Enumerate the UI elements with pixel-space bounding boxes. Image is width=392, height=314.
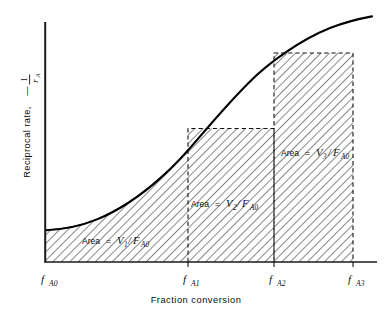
- svg-text:A2: A2: [276, 279, 286, 288]
- svg-text:=: =: [106, 236, 111, 246]
- svg-text:A0: A0: [249, 204, 258, 212]
- svg-text:f: f: [269, 273, 274, 285]
- svg-text:1: 1: [20, 78, 29, 82]
- area-region-1: [40, 120, 200, 270]
- x-tick-label-fa0: f A0: [41, 273, 58, 288]
- svg-text:—: —: [22, 86, 32, 96]
- svg-text:Area: Area: [281, 148, 299, 158]
- svg-text:=: =: [215, 199, 220, 209]
- svg-text:F: F: [132, 235, 140, 246]
- x-tick-label-fa3: f A3: [348, 273, 365, 288]
- area-region-2: [186, 126, 278, 266]
- svg-text:Area: Area: [191, 199, 209, 209]
- x-tick-label-fa1: f A1: [183, 273, 199, 288]
- svg-text:Reciprocal rate,: Reciprocal rate,: [22, 106, 32, 178]
- svg-text:A0: A0: [140, 241, 149, 249]
- svg-text:A3: A3: [355, 279, 365, 288]
- x-tick-label-fa2: f A2: [269, 273, 286, 288]
- svg-text:r: r: [30, 79, 40, 83]
- svg-text:A1: A1: [190, 279, 199, 288]
- x-axis-title: Fraction conversion: [151, 295, 242, 305]
- svg-text:A: A: [34, 74, 41, 79]
- svg-text:A0: A0: [340, 153, 349, 161]
- svg-text:Area: Area: [82, 236, 100, 246]
- svg-text:f: f: [348, 273, 353, 285]
- y-axis-fraction: 1 r A: [20, 74, 41, 85]
- svg-text:f: f: [183, 273, 188, 285]
- svg-text:3: 3: [322, 153, 327, 161]
- svg-text:F: F: [241, 198, 249, 209]
- svg-text:=: =: [305, 148, 310, 158]
- reciprocal-rate-figure: f A0 f A1 f A2 f A3 Fraction conversion …: [0, 0, 392, 314]
- figure-canvas: f A0 f A1 f A2 f A3 Fraction conversion …: [0, 0, 392, 314]
- svg-text:F: F: [332, 147, 340, 158]
- y-axis-title: Reciprocal rate, — 1 r A: [20, 74, 41, 178]
- svg-text:A0: A0: [48, 279, 58, 288]
- svg-text:f: f: [41, 273, 46, 285]
